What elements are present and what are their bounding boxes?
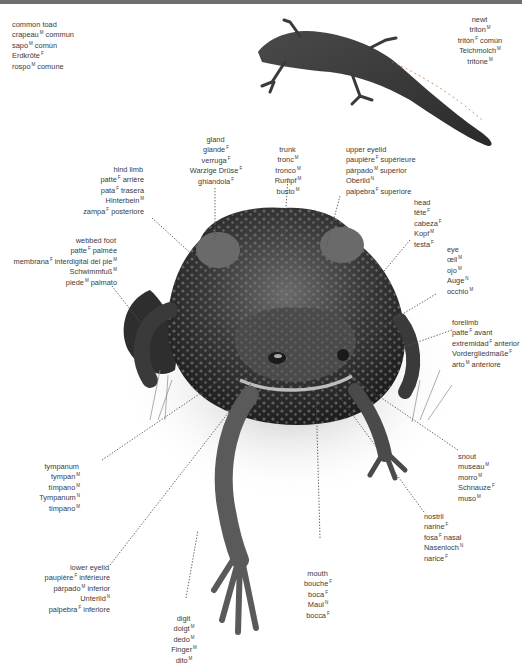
label-line: timpanoM xyxy=(20,503,80,513)
gender-marker: M xyxy=(191,635,195,640)
term-text: doigt xyxy=(174,624,190,633)
label-line: troncM xyxy=(264,154,312,164)
label-line: glandeF xyxy=(176,144,256,154)
label-line: occhioM xyxy=(447,286,473,296)
label-line: trunk xyxy=(264,144,312,154)
term-tail: avant xyxy=(472,328,492,337)
label-line: OberlidN xyxy=(346,175,416,185)
term-text: triton xyxy=(469,25,485,34)
term-tail: superior xyxy=(378,166,407,175)
label-line: troncoM xyxy=(264,165,312,175)
label-line: tritoneM xyxy=(440,56,520,66)
label-line: digit xyxy=(160,613,208,623)
label-line: palpebraF superiore xyxy=(346,186,416,196)
gender-marker: N xyxy=(77,493,80,498)
label-trunk: trunktroncMtroncoMRumpfMbustoM xyxy=(264,144,312,196)
label-mouth: mouthboucheFbocaFMaulNboccaF xyxy=(294,568,342,620)
label-line: KopfM xyxy=(414,228,442,238)
term-text: arto xyxy=(452,360,465,369)
term-tail: inférieure xyxy=(77,573,110,582)
term-text: párpado xyxy=(346,166,373,175)
label-line: narineF xyxy=(424,521,463,531)
label-line: zampaF posteriore xyxy=(70,206,144,216)
label-line: dedoM xyxy=(160,634,208,644)
label-line: upper eyelid xyxy=(346,144,416,154)
label-line: museauM xyxy=(458,461,495,471)
label-line: morroM xyxy=(458,472,495,482)
gender-marker: M xyxy=(487,25,491,30)
label-line: SchnauzeF xyxy=(458,482,495,492)
gender-marker: M xyxy=(298,176,302,181)
term-text: upper eyelid xyxy=(346,145,386,154)
gender-marker: M xyxy=(297,166,301,171)
term-text: hind limb xyxy=(113,165,143,174)
term-text: palpebra xyxy=(49,605,78,614)
label-tympanum: tympanumtympanMtímpanoMTympanumNtimpanoM xyxy=(20,461,80,513)
term-text: lower eyelid xyxy=(70,563,109,572)
gender-marker: M xyxy=(458,266,462,271)
label-line: bocaF xyxy=(294,589,342,599)
term-text: Hinterbein xyxy=(106,196,140,205)
label-line: hind limb xyxy=(70,164,144,174)
term-text: tympan xyxy=(51,472,75,481)
label-line: TympanumN xyxy=(20,492,80,502)
gender-marker: M xyxy=(469,287,473,292)
label-line: FingerM xyxy=(160,644,208,654)
label-digit: digitdoigtMdedoMFingerMditoM xyxy=(160,613,208,663)
label-line: HinterbeinM xyxy=(70,195,144,205)
gender-marker: F xyxy=(327,611,330,616)
term-text: Oberlid xyxy=(346,176,370,185)
label-line: musoM xyxy=(458,493,495,503)
label-line: TeichmolchM xyxy=(440,45,520,55)
term-text: morro xyxy=(458,473,477,482)
term-text: Unterlid xyxy=(80,594,105,603)
term-text: tête xyxy=(414,208,426,217)
label-upper-eyelid: upper eyelidpaupièreF supérieurepárpadoM… xyxy=(346,144,416,196)
gender-marker: F xyxy=(231,177,234,182)
label-line: cabezaF xyxy=(414,218,442,228)
label-nostril: nostrilnarineFfosaF nasalNasenlochNnaric… xyxy=(424,511,463,563)
term-text: tímpano xyxy=(49,483,76,492)
label-line: artoM anteriore xyxy=(452,359,519,369)
term-text: head xyxy=(414,198,430,207)
term-text: Maul xyxy=(308,600,324,609)
gender-marker: M xyxy=(296,187,300,192)
gender-marker: F xyxy=(226,145,229,150)
label-line: párpadoM superior xyxy=(346,165,416,175)
term-tail: inferior xyxy=(85,584,110,593)
term-text: Kopf xyxy=(414,229,429,238)
term-tail: inferiore xyxy=(81,605,110,614)
label-line: tímpanoM xyxy=(20,482,80,492)
label-line: snout xyxy=(458,451,495,461)
label-line: newt xyxy=(440,14,520,24)
term-text: testa xyxy=(414,240,430,249)
title-line-it: rospoM comune xyxy=(12,61,74,71)
label-hind-limb: hind limbpatteF arrièrepataF traseraHint… xyxy=(70,164,144,216)
term-text: busto xyxy=(277,187,295,196)
label-line: testaF xyxy=(414,239,442,249)
term-tail: palmée xyxy=(91,246,117,255)
gender-marker: N xyxy=(371,176,374,181)
term-text: bocca xyxy=(306,611,326,620)
term-text: Schnauze xyxy=(458,483,491,492)
term-text: webbed foot xyxy=(76,236,116,245)
label-line: ditoM xyxy=(160,655,208,663)
label-line: extremidadF anterior xyxy=(452,338,519,348)
gender-marker: M xyxy=(497,46,501,51)
label-line: membranaF interdigital del pieM xyxy=(0,256,117,266)
gender-marker: F xyxy=(239,166,242,171)
gender-marker: F xyxy=(325,590,328,595)
term-tail: interdigital del pie xyxy=(53,257,113,266)
label-line: Warzige DrüseF xyxy=(176,165,256,175)
gender-marker: M xyxy=(477,494,481,499)
term-text: verruga xyxy=(202,156,227,165)
term-text: occhio xyxy=(447,287,468,296)
title-line-es: sapoM común xyxy=(12,40,74,50)
label-line: gland xyxy=(176,134,256,144)
label-line: mouth xyxy=(294,568,342,578)
title-line-fr: crapeauM commun xyxy=(12,29,74,39)
gender-marker: M xyxy=(191,624,195,629)
gender-marker: M xyxy=(430,229,434,234)
term-tail: arrière xyxy=(121,175,144,184)
gender-marker: M xyxy=(113,257,117,262)
